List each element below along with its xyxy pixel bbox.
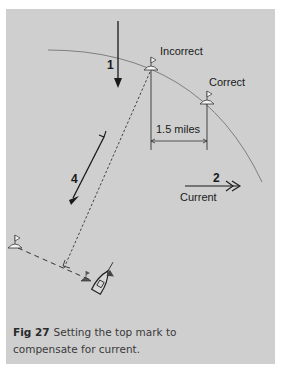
startline-dashed [18, 248, 88, 279]
course-diagram [0, 0, 283, 370]
pin-mark-icon [8, 235, 22, 248]
figure-caption: Fig 27Setting the top mark to compensate… [13, 324, 233, 358]
figure-number: Fig 27 [13, 326, 50, 338]
arrow-4-icon [69, 131, 106, 205]
boat-icon [92, 260, 120, 296]
approach-dashed-line [64, 72, 150, 268]
step-4-label: 4 [71, 172, 78, 186]
incorrect-label: Incorrect [160, 45, 203, 57]
distance-label: 1.5 miles [156, 123, 200, 135]
correct-mark-icon [200, 91, 214, 104]
step-1-label: 1 [107, 58, 114, 72]
step-2-label: 2 [213, 171, 220, 185]
incorrect-mark-icon [144, 57, 158, 70]
small-mark-icon [81, 271, 91, 281]
correct-label: Correct [209, 76, 245, 88]
arrow-1-icon [114, 21, 122, 88]
current-label: Current [180, 191, 217, 203]
